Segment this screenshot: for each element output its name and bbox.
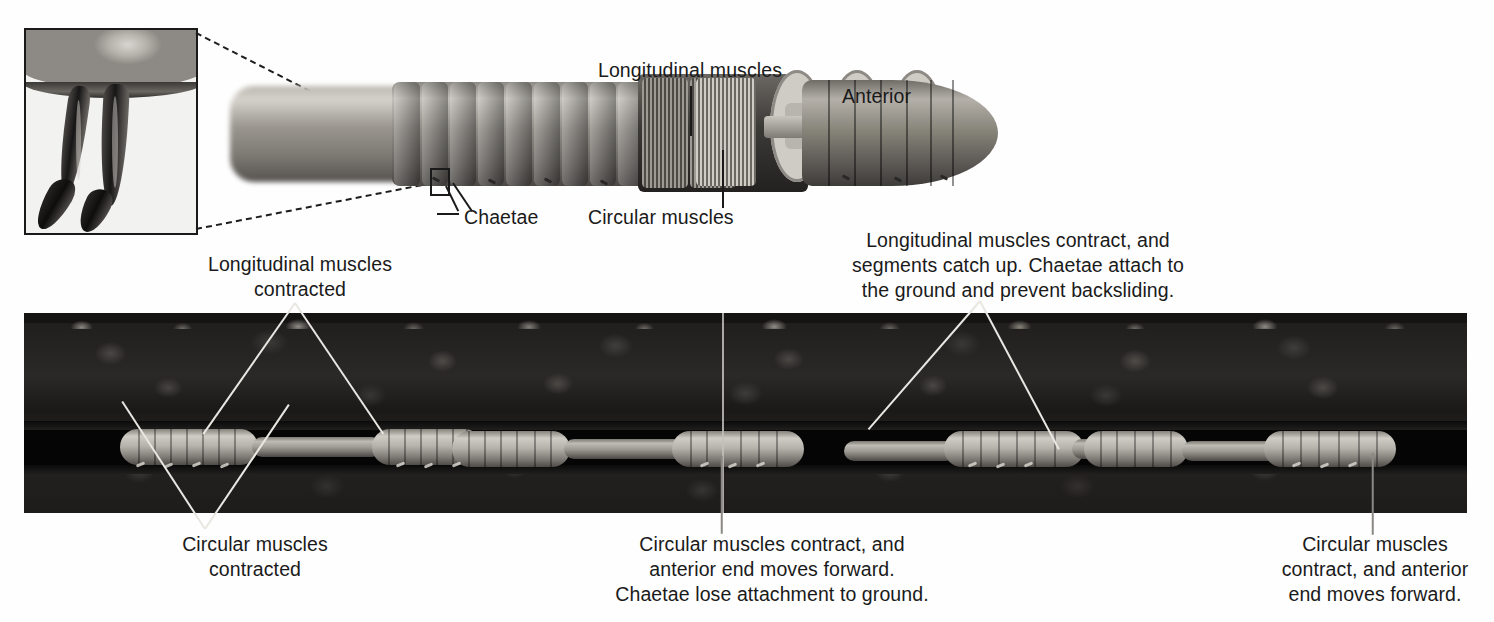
- chaeta-highlight-left: [76, 100, 81, 180]
- label-anterior: Anterior: [842, 84, 911, 109]
- circular-muscles-leader: [722, 150, 724, 208]
- callout-circular-contracted: Circular muscles contracted: [110, 532, 400, 582]
- callout-circular-contract-right: Circular muscles contract, and anterior …: [1260, 532, 1490, 607]
- callout-longitudinal-contracted: Longitudinal muscles contracted: [160, 252, 440, 302]
- worm-body-1a: [120, 429, 258, 465]
- worm-body-3b: [944, 431, 1084, 467]
- chaeta-left-tip: [30, 174, 81, 235]
- chaeta-highlight-right: [112, 96, 118, 188]
- worm-body-2a: [452, 431, 570, 467]
- chaetae-closeup-inset: [24, 28, 198, 235]
- worm-body-2c: [672, 431, 804, 467]
- chaetae-leader-elbow: [437, 213, 459, 215]
- label-circular-muscles: Circular muscles: [588, 205, 734, 230]
- soil-matrix: [24, 323, 1467, 513]
- label-longitudinal-muscles: Longitudinal muscles: [575, 58, 805, 83]
- longitudinal-muscles-leader: [690, 86, 692, 136]
- leader-right-caption: [1372, 453, 1374, 535]
- worm-body-3a: [844, 441, 956, 461]
- worm-posterior-blur: [230, 86, 412, 182]
- worm-body-1b: [252, 437, 382, 457]
- earthworm-locomotion-figure: Longitudinal muscles Anterior Chaetae Ci…: [0, 0, 1494, 622]
- inset-body-wall: [24, 28, 198, 88]
- callout-longitudinal-contract-catchup: Longitudinal muscles contract, and segme…: [808, 228, 1228, 303]
- label-chaetae: Chaetae: [464, 205, 538, 230]
- worm-body-2b: [564, 439, 684, 459]
- soil-surface: [24, 313, 1467, 329]
- leader-center-caption: [721, 456, 723, 534]
- callout-circular-contract-center: Circular muscles contract, and anterior …: [568, 532, 976, 607]
- worm-body-4c: [1264, 431, 1396, 467]
- worm-body-4a: [1084, 431, 1188, 467]
- circular-muscle-layer: [642, 78, 688, 188]
- longitudinal-muscle-layer: [696, 78, 756, 186]
- soil-burrow-photo: [24, 313, 1467, 513]
